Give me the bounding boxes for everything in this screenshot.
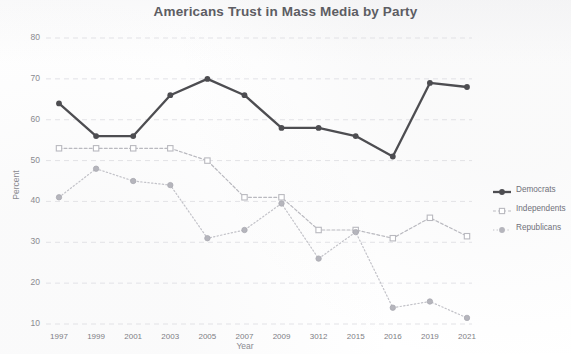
plot-area [0, 0, 571, 354]
data-point [316, 227, 321, 232]
data-point [279, 125, 285, 131]
chart-legend: DemocratsIndependentsRepublicans [492, 180, 571, 237]
series-independents [56, 146, 469, 241]
series-layer [56, 76, 470, 321]
data-point [93, 133, 99, 139]
data-point [427, 299, 432, 304]
data-point [205, 76, 211, 82]
data-point [464, 315, 469, 320]
data-point [427, 215, 432, 220]
legend-label: Independents [516, 204, 566, 213]
series-line [59, 79, 467, 157]
data-point [131, 146, 136, 151]
series-line [59, 148, 467, 238]
data-point [56, 146, 61, 151]
data-point [427, 80, 433, 86]
data-point [56, 101, 62, 107]
data-point [390, 305, 395, 310]
data-point [316, 256, 321, 261]
data-point [205, 236, 210, 241]
data-point [353, 133, 359, 139]
data-point [279, 195, 284, 200]
data-point [168, 146, 173, 151]
legend-label: Democrats [516, 185, 556, 194]
data-point [464, 84, 470, 90]
data-point [130, 133, 136, 139]
legend-swatch-icon [492, 222, 512, 234]
legend-item-republicans[interactable]: Republicans [492, 218, 571, 237]
chart-container: Americans Trust in Mass Media by Party P… [0, 0, 571, 354]
series-line [59, 169, 467, 318]
data-point [93, 146, 98, 151]
data-point [167, 92, 173, 98]
data-point [316, 125, 322, 131]
gridlines [46, 38, 472, 324]
legend-item-independents[interactable]: Independents [492, 199, 571, 218]
data-point [131, 178, 136, 183]
series-democrats [56, 76, 470, 159]
data-point [242, 195, 247, 200]
data-point [242, 92, 248, 98]
data-point [93, 166, 98, 171]
data-point [279, 201, 284, 206]
data-point [205, 158, 210, 163]
data-point [390, 154, 396, 160]
legend-item-democrats[interactable]: Democrats [492, 180, 571, 199]
series-republicans [56, 166, 469, 321]
legend-swatch-icon [492, 184, 512, 196]
legend-swatch-icon [492, 203, 512, 215]
data-point [390, 236, 395, 241]
data-point [168, 182, 173, 187]
legend-label: Republicans [516, 223, 561, 232]
data-point [56, 195, 61, 200]
data-point [353, 229, 358, 234]
data-point [242, 227, 247, 232]
data-point [464, 234, 469, 239]
